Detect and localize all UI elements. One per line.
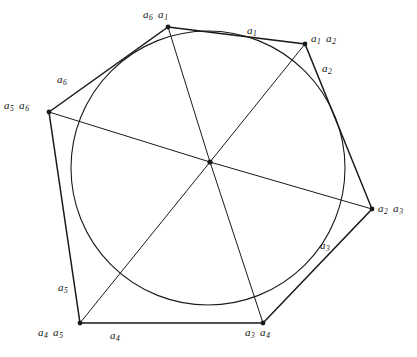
edge-label-a2: a2: [322, 63, 332, 74]
inscribed-circle: [71, 31, 345, 305]
vertex-dot-a3a4: [261, 321, 266, 326]
radius-line-a1a2: [210, 44, 305, 162]
radius-line-a6a1: [168, 27, 210, 162]
center-dot: [207, 159, 212, 164]
radius-line-a4a5: [80, 162, 210, 323]
edge-label-a1: a1: [247, 25, 257, 36]
radius-line-a3a4: [210, 162, 263, 323]
edge-label-a5: a5: [58, 282, 68, 293]
vertex-dot-a1a2: [303, 42, 308, 47]
radius-line-a2a3: [210, 162, 372, 209]
radius-line-a5a6: [49, 112, 210, 162]
vertex-label-a1-a2: a1a2: [311, 33, 336, 44]
vertex-label-a2-a3: a2a3: [378, 203, 403, 214]
vertex-dot-a4a5: [78, 321, 83, 326]
vertex-dot-a5a6: [47, 110, 52, 115]
vertex-label-a4-a5: a4a5: [38, 327, 63, 338]
edge-label-a6: a6: [57, 74, 67, 85]
vertex-dot-a6a1: [166, 25, 171, 30]
vertex-label-a3-a4: a3a4: [245, 327, 270, 338]
vertex-label-a5-a6: a5a6: [4, 100, 29, 111]
edge-label-a4: a4: [110, 330, 120, 341]
vertex-dot-a2a3: [370, 207, 375, 212]
geometry-figure: [0, 0, 417, 357]
vertex-label-a6-a1: a6a1: [143, 9, 168, 20]
edge-label-a3: a3: [320, 240, 330, 251]
